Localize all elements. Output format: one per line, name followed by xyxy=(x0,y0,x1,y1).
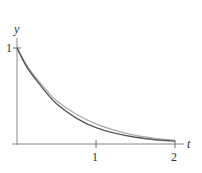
y-tick-label-1: 1 xyxy=(6,41,12,55)
axes xyxy=(12,38,184,148)
x-tick-label-2: 2 xyxy=(171,150,177,164)
x-axis-label: t xyxy=(187,137,191,151)
light-curve xyxy=(17,48,175,140)
y-axis-label: y xyxy=(13,22,20,36)
curves xyxy=(17,48,175,141)
dark-curve xyxy=(17,48,175,141)
x-tick-label-1: 1 xyxy=(92,150,98,164)
chart: y t 1 1 2 xyxy=(0,0,202,173)
